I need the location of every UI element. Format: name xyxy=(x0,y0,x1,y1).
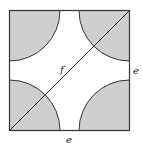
label-diagonal-f: f xyxy=(59,64,66,75)
quarter-circle-bottom-right xyxy=(79,80,130,131)
geometry-diagram: f e e xyxy=(0,0,143,147)
label-right-side-e: e xyxy=(133,65,139,76)
label-bottom-side-e: e xyxy=(66,134,72,145)
quarter-circle-top-left xyxy=(10,11,61,62)
